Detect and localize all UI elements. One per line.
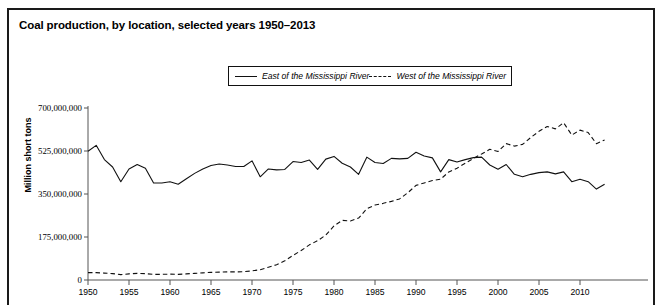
y-tick-label: 0 xyxy=(78,275,83,285)
x-tick-label: 1965 xyxy=(201,287,220,297)
x-tick-label: 2010 xyxy=(570,287,589,297)
x-tick-label: 1960 xyxy=(160,287,179,297)
x-tick-label: 1970 xyxy=(242,287,261,297)
y-tick-label: 350,000,000 xyxy=(38,189,83,199)
x-tick-label: 2000 xyxy=(488,287,507,297)
x-tick-marks xyxy=(88,280,580,285)
x-tick-label: 1990 xyxy=(406,287,425,297)
x-tick-label: 1995 xyxy=(447,287,466,297)
series-line-east xyxy=(88,145,605,189)
plot-area: 0175,000,000350,000,000525,000,000700,00… xyxy=(0,0,661,308)
y-tick-label-group: 0175,000,000350,000,000525,000,000700,00… xyxy=(38,103,83,285)
y-tick-label: 525,000,000 xyxy=(38,146,83,156)
x-tick-label: 2005 xyxy=(529,287,548,297)
x-tick-label: 1950 xyxy=(78,287,97,297)
x-tick-label: 1980 xyxy=(324,287,343,297)
y-tick-label: 700,000,000 xyxy=(38,103,83,113)
axis-lines xyxy=(88,106,648,280)
x-tick-label-group: 1950195519601965197019751980198519901995… xyxy=(78,287,589,297)
x-tick-label: 1985 xyxy=(365,287,384,297)
x-tick-label: 1955 xyxy=(119,287,138,297)
chart-figure: Coal production, by location, selected y… xyxy=(0,0,661,308)
x-tick-label: 1975 xyxy=(283,287,302,297)
y-tick-label: 175,000,000 xyxy=(38,232,83,242)
series-line-west xyxy=(88,123,605,275)
y-tick-marks xyxy=(84,108,88,280)
